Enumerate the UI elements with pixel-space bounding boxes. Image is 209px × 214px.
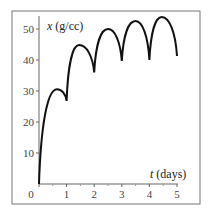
x-axis-label: t (days)	[150, 167, 186, 181]
y-tick-label: 20	[23, 116, 35, 128]
x-tick-label: 0	[28, 188, 34, 200]
y-tick-label: 40	[23, 54, 35, 66]
y-tick-label: 30	[23, 85, 35, 97]
y-tick-label: 50	[23, 23, 35, 35]
x-tick-label: 3	[119, 188, 125, 200]
x-tick-label: 1	[64, 188, 70, 200]
x-tick-label: 4	[147, 188, 153, 200]
y-axis-label: x (g/cc)	[46, 19, 83, 33]
x-tick-label: 2	[91, 188, 97, 200]
y-tick-label: 10	[23, 147, 35, 159]
x-tick-label: 5	[174, 188, 180, 200]
chart: 012345 1020304050 x (g/cc) t (days)	[0, 0, 209, 214]
